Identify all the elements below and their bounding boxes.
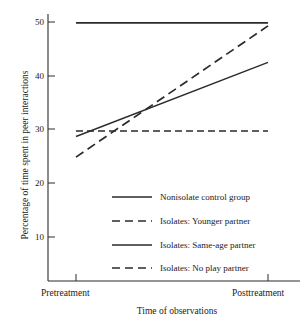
y-tick-label-50: 50 [26, 18, 44, 27]
y-tick-marks [48, 22, 55, 237]
x-tick-marks [76, 274, 268, 281]
legend-label-isolates-younger-partner: Isolates: Younger partner [160, 217, 250, 226]
chart-figure: 50 40 30 20 10 Pretreatment Posttreatmen… [0, 0, 306, 328]
legend-label-isolates-no-play-partner: Isolates: No play partner [160, 264, 249, 273]
x-axis-title: Time of observations [48, 306, 306, 316]
x-tick-label-pretreatment: Pretreatment [41, 288, 90, 298]
y-axis-title: Percentage of time spent in peer interac… [20, 55, 30, 255]
legend-label-nonisolate-control-group: Nonisolate control group [160, 193, 250, 202]
series-line-isolates-same-age-partner [76, 62, 268, 136]
x-tick-label-posttreatment: Posttreatment [232, 288, 284, 298]
legend-label-isolates-same-age-partner: Isolates: Same-age partner [160, 241, 255, 250]
series-line-isolates-younger-partner [76, 26, 268, 157]
y-axis-title-wrap: Percentage of time spent in peer interac… [0, 0, 20, 328]
line-chart-canvas [0, 0, 306, 328]
